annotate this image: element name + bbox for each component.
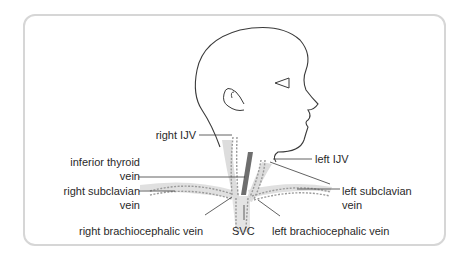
label-left-ijv: left IJV [315, 153, 349, 165]
neck-veins-diagram: right IJV left IJV inferior thyroid vein… [0, 0, 470, 255]
head-outline [195, 28, 318, 162]
vein-shading [140, 140, 332, 232]
label-svc: SVC [232, 225, 255, 237]
label-inferior-thyroid: inferior thyroid [70, 156, 140, 168]
label-right-ijv: right IJV [156, 129, 197, 141]
label-right-subclavian: right subclavian [64, 185, 140, 197]
label-inferior-thyroid-2: vein [120, 170, 140, 182]
label-left-subclavian: left subclavian [342, 185, 412, 197]
label-right-subclavian-2: vein [120, 199, 140, 211]
eye-icon [275, 78, 289, 88]
label-left-brachiocephalic: left brachiocephalic vein [272, 225, 389, 237]
label-right-brachiocephalic: right brachiocephalic vein [79, 225, 203, 237]
label-left-subclavian-2: vein [342, 199, 362, 211]
